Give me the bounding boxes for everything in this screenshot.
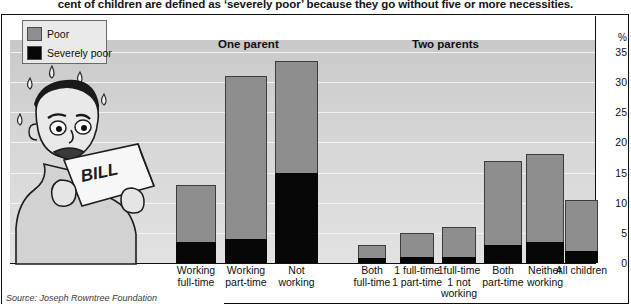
bar-segment-severely-poor xyxy=(176,242,216,263)
y-tick-label-35: 35 xyxy=(601,47,627,58)
bar-neither-working xyxy=(526,154,564,263)
bar-segment-severely-poor xyxy=(358,258,386,263)
y-tick-label-5: 5 xyxy=(601,228,627,239)
legend-label-severely-poor: Severely poor xyxy=(47,47,112,59)
y-axis-unit: % xyxy=(601,33,627,43)
bar-working-part-time xyxy=(225,76,267,263)
bar-segment-severely-poor xyxy=(526,242,564,263)
y-tick-label-10: 10 xyxy=(601,198,627,209)
group-header-one-parent: One parent xyxy=(218,38,279,50)
legend-item-severely-poor: Severely poor xyxy=(27,44,102,62)
x-label-all-children: All children xyxy=(549,265,615,277)
legend-item-poor: Poor xyxy=(27,25,102,43)
bar-segment-severely-poor xyxy=(442,257,476,263)
bar-segment-poor xyxy=(225,76,267,263)
bar-all-children xyxy=(565,200,598,263)
bar-segment-severely-poor xyxy=(484,245,522,263)
source-note: Source: Joseph Rowntree Foundation xyxy=(6,293,157,303)
figure-caption: cent of children are defined as ‘severel… xyxy=(0,0,631,12)
y-tick-label-20: 20 xyxy=(601,137,627,148)
cartoon-illustration: BILL xyxy=(8,60,188,265)
x-label-not-working: Notworking xyxy=(264,265,330,288)
bar-both-part-time xyxy=(484,161,522,263)
bar-segment-severely-poor xyxy=(275,173,318,263)
bar-1full-time-1-not-working xyxy=(442,227,476,263)
bar-segment-severely-poor xyxy=(400,257,434,263)
y-tick-label-15: 15 xyxy=(601,168,627,179)
bar-segment-severely-poor xyxy=(225,239,267,263)
chart-figure: cent of children are defined as ‘severel… xyxy=(0,0,631,306)
y-tick-label-25: 25 xyxy=(601,107,627,118)
legend: Poor Severely poor xyxy=(22,20,107,64)
bar-not-working xyxy=(275,61,318,263)
legend-swatch-severely-poor-icon xyxy=(27,46,42,60)
bar-both-full-time xyxy=(358,245,386,263)
y-tick-label-30: 30 xyxy=(601,77,627,88)
legend-label-poor: Poor xyxy=(47,28,69,40)
legend-swatch-poor-icon xyxy=(27,27,42,41)
bar-1-full-time-1-part-time xyxy=(400,233,434,263)
bar-working-full-time xyxy=(176,185,216,263)
group-header-two-parents: Two parents xyxy=(412,38,479,50)
bar-segment-severely-poor xyxy=(565,251,598,263)
